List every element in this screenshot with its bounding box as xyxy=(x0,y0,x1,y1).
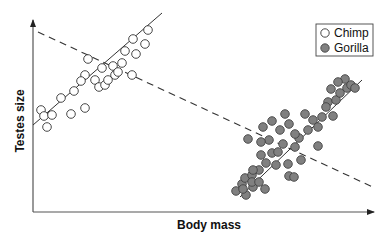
chimp-data-point xyxy=(132,50,141,59)
chimp-data-point xyxy=(141,40,150,49)
gorilla-data-point xyxy=(304,126,313,135)
scatter-chart: Testes size Body mass Chimp Gorilla xyxy=(0,0,391,244)
chimp-data-point xyxy=(128,71,137,80)
chimp-data-point xyxy=(118,59,127,68)
gorilla-data-point xyxy=(297,156,306,165)
gorilla-data-point xyxy=(268,117,277,126)
gorilla-data-point xyxy=(314,123,323,132)
gorilla-data-point xyxy=(281,110,290,119)
gorilla-data-point xyxy=(351,84,360,93)
gorilla-data-point xyxy=(274,148,283,157)
legend-chimp-marker-icon xyxy=(321,29,329,37)
gorilla-data-point xyxy=(284,160,293,169)
legend: Chimp Gorilla xyxy=(316,24,373,56)
gorilla-data-point xyxy=(318,113,327,122)
legend-chimp-label: Chimp xyxy=(334,26,369,40)
y-axis-title: Testes size xyxy=(13,89,27,152)
gorilla-data-point xyxy=(262,159,271,168)
chimp-data-point xyxy=(114,68,123,77)
gorilla-data-point xyxy=(257,151,266,160)
gorilla-data-point xyxy=(257,138,266,147)
legend-gorilla-marker-icon xyxy=(321,44,329,52)
chimp-data-point xyxy=(43,123,52,132)
legend-gorilla-label: Gorilla xyxy=(334,41,369,55)
chimp-data-point xyxy=(129,35,138,44)
x-axis-title: Body mass xyxy=(177,218,241,232)
gorilla-data-point xyxy=(329,112,338,121)
data-points xyxy=(37,26,360,200)
chimp-data-point xyxy=(81,104,90,113)
chimp-data-point xyxy=(77,77,86,86)
gorilla-data-point xyxy=(314,142,323,151)
gorilla-data-point xyxy=(285,120,294,129)
gorilla-data-point xyxy=(239,185,248,194)
chimp-data-point xyxy=(84,55,93,64)
gorilla-data-point xyxy=(272,161,281,170)
gorilla-data-point xyxy=(249,166,258,175)
chimp-data-point xyxy=(98,64,107,73)
gorilla-data-point xyxy=(255,178,264,187)
chimp-data-point xyxy=(48,111,57,120)
gorilla-data-point xyxy=(322,103,331,112)
gorilla-data-point xyxy=(301,110,310,119)
chimp-data-point xyxy=(144,26,153,35)
gorilla-data-point xyxy=(291,130,300,139)
chimp-data-point xyxy=(57,94,66,103)
gorilla-data-point xyxy=(259,123,268,132)
gorilla-data-point xyxy=(279,140,288,149)
gorilla-data-point xyxy=(327,85,336,94)
chimp-data-point xyxy=(70,87,79,96)
gorilla-data-point xyxy=(265,136,274,145)
gorilla-data-point xyxy=(244,135,253,144)
gorilla-data-point xyxy=(290,173,299,182)
chimp-data-point xyxy=(67,110,76,119)
chimp-data-point xyxy=(121,47,130,56)
chimp-data-point xyxy=(40,112,49,121)
gorilla-data-point xyxy=(261,185,270,194)
gorilla-data-point xyxy=(291,143,300,152)
gorilla-data-point xyxy=(276,126,285,135)
gorilla-data-point xyxy=(334,78,343,87)
